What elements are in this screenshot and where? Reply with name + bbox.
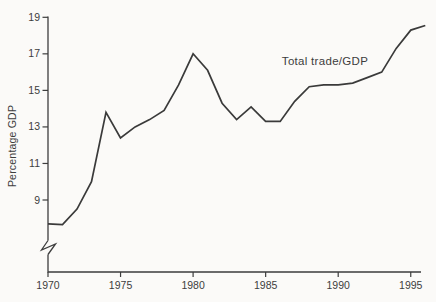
trade-gdp-line-chart: 19171513119 197019751980198519901995 Tot… — [0, 0, 436, 302]
x-tick-label: 1990 — [327, 279, 351, 291]
y-axis-title: Percentage GDP — [6, 105, 18, 187]
y-axis-break-icon — [42, 241, 56, 255]
y-tick-label: 11 — [29, 157, 40, 169]
y-tick-label: 15 — [28, 84, 40, 96]
y-axis-line-lower — [48, 255, 421, 273]
y-tick-label: 17 — [28, 47, 40, 59]
x-tick-label: 1970 — [36, 279, 60, 291]
x-tick-label: 1980 — [181, 279, 205, 291]
chart-canvas: 19171513119 197019751980198519901995 Tot… — [0, 0, 436, 302]
y-tick-label: 19 — [28, 11, 40, 23]
series-label: Total trade/GDP — [282, 55, 368, 67]
y-axis: 19171513119 — [28, 11, 48, 206]
x-axis: 197019751980198519901995 — [36, 272, 422, 291]
x-tick-label: 1975 — [109, 279, 133, 291]
y-tick-label: 9 — [34, 194, 40, 206]
x-tick-label: 1995 — [399, 279, 423, 291]
total-trade-gdp-line — [48, 26, 425, 225]
y-tick-label: 13 — [28, 120, 40, 132]
x-tick-label: 1985 — [254, 279, 278, 291]
